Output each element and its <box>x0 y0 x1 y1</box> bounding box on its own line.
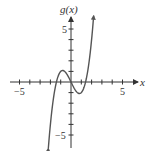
function-graph: g(x) x −5 5 5 −5 <box>0 0 154 151</box>
x-tick-label-neg5: −5 <box>14 86 25 97</box>
x-tick-label-5: 5 <box>120 86 125 97</box>
x-axis-label: x <box>139 76 145 88</box>
y-tick-label-5: 5 <box>62 24 67 35</box>
y-axis-label: g(x) <box>60 3 78 16</box>
y-tick-label-neg5: −5 <box>55 130 66 141</box>
